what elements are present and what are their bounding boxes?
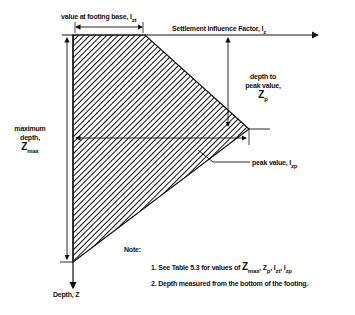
footing-value-label: value at footing base, Izt	[61, 12, 136, 25]
depth-axis-label: Depth, Z	[53, 290, 79, 299]
depth-to-peak-label: depth to peak value, Zp	[238, 72, 288, 104]
influence-factor-region	[73, 35, 249, 262]
note-2: 2. Depth measured from the bottom of the…	[151, 279, 308, 288]
notes-heading: Note:	[124, 245, 141, 254]
note-1: 1. See Table 5.3 for values of Zmax, Zp,…	[151, 262, 292, 276]
peak-value-label: peak value, Izp	[252, 158, 297, 171]
max-depth-label: maximum depth, Zmax	[8, 124, 52, 156]
iz-axis-label: Settlement Influence Factor, Iz	[172, 24, 266, 37]
